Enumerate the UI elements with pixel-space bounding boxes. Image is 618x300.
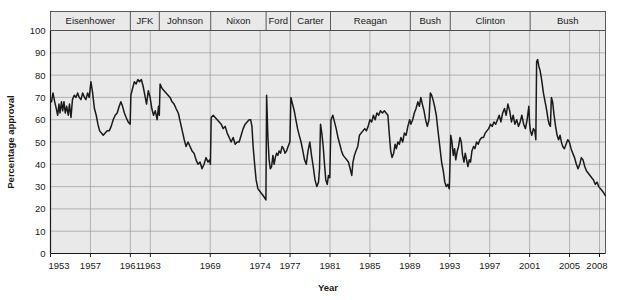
x-tick-label-1989: 1989 xyxy=(399,260,420,271)
x-tick-label-1974: 1974 xyxy=(250,260,271,271)
president-label-bush-9: Bush xyxy=(557,15,579,26)
president-label-bush-7: Bush xyxy=(419,15,441,26)
president-label-carter-5: Carter xyxy=(297,15,323,26)
x-tick-label-1969: 1969 xyxy=(200,260,221,271)
x-tick-label-1997: 1997 xyxy=(479,260,500,271)
y-tick-label-30: 30 xyxy=(35,181,46,192)
president-label-eisenhower-0: Eisenhower xyxy=(66,15,116,26)
president-label-ford-4: Ford xyxy=(269,15,289,26)
x-tick-label-2001: 2001 xyxy=(519,260,540,271)
y-tick-label-60: 60 xyxy=(35,114,46,125)
y-axis-title: Percentage approval xyxy=(5,95,16,188)
x-tick-label-1993: 1993 xyxy=(439,260,460,271)
y-tick-label-10: 10 xyxy=(35,226,46,237)
x-tick-label-2005: 2005 xyxy=(559,260,580,271)
x-tick-label-1957: 1957 xyxy=(80,260,101,271)
x-tick-label-1961: 1961 xyxy=(120,260,141,271)
approval-rating-chart: EisenhowerJFKJohnsonNixonFordCarterReaga… xyxy=(0,0,618,300)
chart-figure: EisenhowerJFKJohnsonNixonFordCarterReaga… xyxy=(0,0,618,300)
x-tick-label-2008: 2008 xyxy=(586,260,607,271)
y-tick-label-20: 20 xyxy=(35,203,46,214)
y-tick-label-70: 70 xyxy=(35,92,46,103)
x-tick-label-1981: 1981 xyxy=(319,260,340,271)
x-tick-label-1985: 1985 xyxy=(359,260,380,271)
y-tick-label-0: 0 xyxy=(40,248,45,259)
x-tick-label-1977: 1977 xyxy=(279,260,300,271)
president-band-background xyxy=(51,12,606,31)
president-label-reagan-6: Reagan xyxy=(354,15,387,26)
x-axis-title: Year xyxy=(318,282,338,293)
x-tick-label-1963: 1963 xyxy=(140,260,161,271)
y-tick-label-50: 50 xyxy=(35,137,46,148)
y-tick-label-40: 40 xyxy=(35,159,46,170)
president-label-nixon-3: Nixon xyxy=(226,15,250,26)
president-label-jfk-1: JFK xyxy=(136,15,154,26)
y-tick-label-80: 80 xyxy=(35,70,46,81)
president-label-johnson-2: Johnson xyxy=(167,15,203,26)
y-tick-label-100: 100 xyxy=(30,25,46,36)
president-label-clinton-8: Clinton xyxy=(475,15,505,26)
x-tick-label-1953: 1953 xyxy=(49,260,70,271)
y-tick-label-90: 90 xyxy=(35,47,46,58)
